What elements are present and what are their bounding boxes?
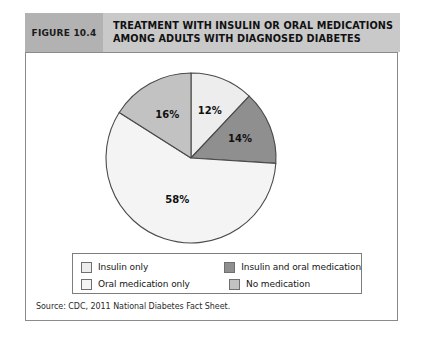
- legend-label-2: Oral medication only: [98, 279, 190, 289]
- pie-slice-group: [106, 73, 276, 243]
- chart-legend: Insulin only Insulin and oral medication…: [72, 253, 362, 294]
- pie-slice-label-2: 14%: [228, 133, 252, 144]
- legend-label-3: No medication: [246, 279, 310, 289]
- figure-number-box: FIGURE 10.4: [25, 13, 103, 52]
- legend-row: Oral medication only No medication: [81, 276, 361, 292]
- pie-slice-label-3: 58%: [165, 194, 189, 205]
- figure-content-frame: 12%14%58%16% Insulin only Insulin and or…: [25, 52, 398, 321]
- legend-swatch-icon-2: [81, 279, 92, 290]
- legend-item-no-medication: No medication: [229, 279, 310, 290]
- figure-title-line-1: TREATMENT WITH INSULIN OR ORAL MEDICATIO…: [113, 20, 393, 33]
- figure-title: TREATMENT WITH INSULIN OR ORAL MEDICATIO…: [103, 13, 402, 52]
- legend-item-oral-medication-only: Oral medication only: [81, 279, 229, 290]
- legend-item-insulin-and-oral-medication: Insulin and oral medication: [224, 262, 361, 273]
- pie-slice-label-4: 16%: [155, 109, 179, 120]
- legend-swatch-icon-3: [229, 279, 240, 290]
- legend-swatch-icon-1: [224, 262, 235, 273]
- figure-title-line-2: AMONG ADULTS WITH DIAGNOSED DIABETES: [113, 33, 393, 46]
- legend-swatch-icon-0: [81, 262, 92, 273]
- legend-item-insulin-only: Insulin only: [81, 262, 224, 273]
- pie-chart: 12%14%58%16%: [103, 70, 279, 246]
- pie-slice-label-1: 12%: [198, 105, 222, 116]
- source-note: Source: CDC, 2011 National Diabetes Fact…: [36, 302, 230, 311]
- figure-header-bar: FIGURE 10.4 TREATMENT WITH INSULIN OR OR…: [25, 13, 400, 52]
- legend-label-1: Insulin and oral medication: [241, 262, 361, 272]
- legend-label-0: Insulin only: [98, 262, 148, 272]
- figure-number-label: FIGURE 10.4: [32, 28, 97, 38]
- legend-row: Insulin only Insulin and oral medication: [81, 259, 361, 275]
